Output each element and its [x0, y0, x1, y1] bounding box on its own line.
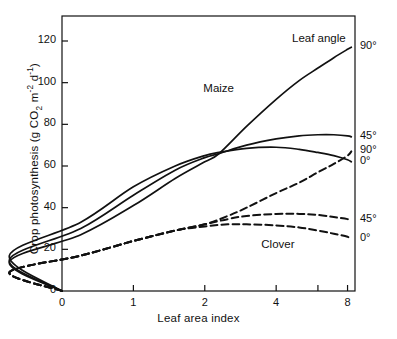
y-tick-label: 0 — [26, 283, 56, 295]
y-axis-title-lead: Crop photosynthesis (g CO — [28, 110, 40, 254]
y-tick-label: 60 — [26, 158, 56, 170]
x-tick-label: 4 — [264, 296, 288, 308]
data-series-group — [9, 47, 351, 291]
chart-figure: Crop photosynthesis (g CO2 m-2 d-1) Leaf… — [0, 0, 397, 339]
legend-title: Leaf angle — [292, 32, 346, 44]
x-axis-title: Leaf area index — [0, 312, 397, 324]
y-axis-title-sup-day: -1 — [26, 67, 35, 75]
y-tick-label: 20 — [26, 241, 56, 253]
x-tick-label: 2 — [193, 296, 217, 308]
y-tick-label: 120 — [26, 33, 56, 45]
series-line-maize-0 — [9, 147, 351, 291]
series-line-clover-90 — [9, 151, 351, 291]
annotation-maize: Maize — [203, 82, 234, 94]
series-end-label-maize-90: 90° — [360, 39, 377, 51]
series-line-clover-0 — [9, 224, 351, 291]
y-tick-label: 40 — [26, 200, 56, 212]
y-tick-label: 100 — [26, 75, 56, 87]
series-line-clover-45 — [9, 214, 351, 291]
series-end-label-clover-45: 45° — [360, 212, 377, 224]
series-end-label-maize-0: 0° — [360, 154, 371, 166]
x-tick-label: 8 — [336, 296, 360, 308]
x-tick-label: 1 — [121, 296, 145, 308]
y-axis-title-mid: m — [28, 92, 40, 105]
series-line-maize-45 — [9, 135, 351, 291]
series-end-label-maize-45: 45° — [360, 129, 377, 141]
plot-area — [0, 0, 397, 339]
x-tick-label: 0 — [50, 296, 74, 308]
y-tick-label: 80 — [26, 116, 56, 128]
y-axis-title-sub-co2: 2 — [35, 106, 44, 111]
series-end-label-clover-90: 90° — [360, 143, 377, 155]
axis-ticks — [62, 41, 348, 291]
series-end-label-clover-0: 0° — [360, 231, 371, 243]
annotation-clover: Clover — [261, 238, 294, 250]
y-axis-title-tail: ) — [28, 63, 40, 67]
series-line-maize-90 — [9, 47, 351, 291]
